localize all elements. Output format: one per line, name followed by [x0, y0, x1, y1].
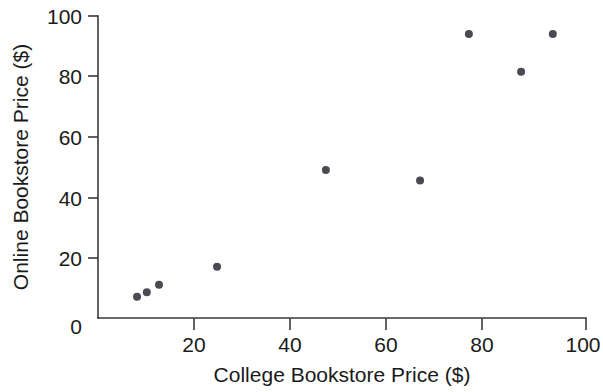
- data-point: [155, 281, 163, 289]
- x-tick-label-80: 80: [470, 333, 493, 356]
- y-tick-label-100: 100: [47, 5, 82, 28]
- axis-lines: [98, 16, 586, 318]
- y-axis-ticks: [88, 16, 98, 258]
- data-point: [465, 30, 473, 38]
- data-point: [549, 30, 557, 38]
- data-point: [213, 263, 221, 271]
- data-point: [416, 177, 424, 185]
- data-point: [133, 293, 141, 301]
- y-tick-label-80: 80: [59, 65, 82, 88]
- data-point: [517, 68, 525, 76]
- data-point: [143, 288, 151, 296]
- y-axis-tick-labels: 100 80 60 40 20 0: [47, 5, 82, 338]
- y-tick-label-20: 20: [59, 247, 82, 270]
- y-axis-title: Online Bookstore Price ($): [9, 44, 32, 290]
- x-tick-label-60: 60: [374, 333, 397, 356]
- x-axis-title: College Bookstore Price ($): [214, 363, 471, 386]
- x-axis-ticks: [194, 318, 586, 330]
- y-tick-label-40: 40: [59, 187, 82, 210]
- scatter-chart: 100 80 60 40 20 0 20 40 60 80 100 Colleg…: [0, 0, 603, 392]
- data-points-layer: [133, 30, 557, 301]
- y-tick-label-0: 0: [70, 315, 82, 338]
- chart-canvas: 100 80 60 40 20 0 20 40 60 80 100 Colleg…: [0, 0, 603, 392]
- x-tick-label-20: 20: [182, 333, 205, 356]
- data-point: [322, 166, 330, 174]
- x-axis-tick-labels: 20 40 60 80 100: [182, 333, 600, 356]
- y-tick-label-60: 60: [59, 126, 82, 149]
- x-tick-label-40: 40: [278, 333, 301, 356]
- x-tick-label-100: 100: [565, 333, 600, 356]
